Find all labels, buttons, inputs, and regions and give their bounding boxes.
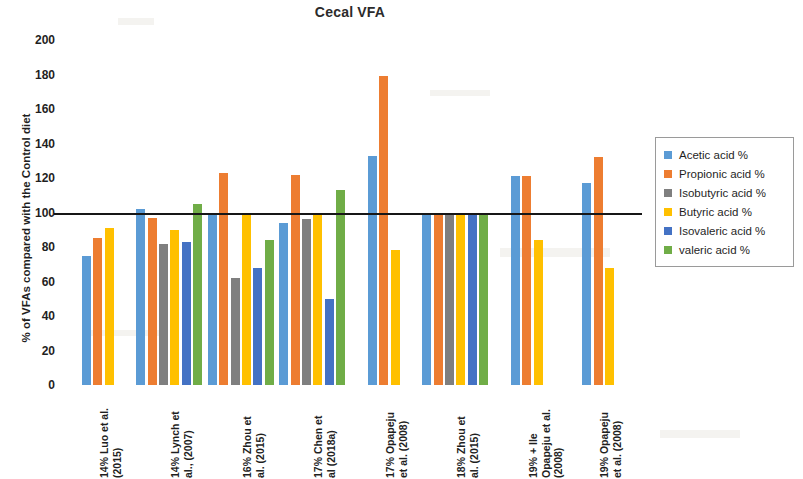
bar[interactable] (522, 176, 531, 385)
bar[interactable] (468, 213, 477, 386)
legend-label: Isobutyric acid % (679, 187, 766, 199)
x-axis-label: 17% Opapeju et al. (2008) (384, 390, 409, 478)
bar[interactable] (336, 190, 345, 385)
bar[interactable] (159, 244, 168, 385)
reference-line-100 (54, 213, 642, 215)
x-axis-label-cell: 17% Chen et al (2018a) (277, 388, 349, 479)
x-axis-label-cell: 18% Zhou et al. (2015) (420, 388, 492, 479)
y-tick-label-0: 0 (48, 378, 55, 392)
cecal-vfa-chart: Cecal VFA % of VFAs compared with the Co… (0, 0, 803, 479)
legend-label: valeric acid % (679, 244, 750, 256)
bar[interactable] (379, 76, 388, 385)
bar[interactable] (313, 213, 322, 386)
legend-item[interactable]: Isovaleric acid % (664, 221, 787, 240)
bar[interactable] (302, 219, 311, 385)
legend-label: Acetic acid % (679, 149, 748, 161)
bar[interactable] (219, 173, 228, 385)
bar[interactable] (105, 228, 114, 385)
y-tick-label-100: 100 (35, 206, 55, 220)
bar[interactable] (182, 242, 191, 385)
x-axis-labels: 14% Luo et al. (2015)14% Lynch et al., (… (62, 388, 634, 479)
bar[interactable] (265, 240, 274, 385)
x-axis-label-cell: 14% Lynch et al., (2007) (134, 388, 206, 479)
bar[interactable] (148, 218, 157, 385)
bar[interactable] (193, 204, 202, 385)
bar[interactable] (422, 213, 431, 386)
bar[interactable] (605, 268, 614, 385)
plot-area: 200180160140120100806040200 (62, 40, 634, 385)
bar[interactable] (231, 278, 240, 385)
legend-label: Butyric acid % (679, 206, 752, 218)
legend-item[interactable]: Isobutyric acid % (664, 183, 787, 202)
x-axis-label: 17% Chen et al (2018a) (312, 390, 337, 478)
bar[interactable] (170, 230, 179, 385)
legend-item[interactable]: valeric acid % (664, 240, 787, 259)
y-tick-label-40: 40 (42, 309, 55, 323)
legend-swatch-icon (664, 189, 672, 197)
legend-item[interactable]: Propionic acid % (664, 164, 787, 183)
x-axis-label: 14% Luo et al. (2015) (98, 390, 123, 478)
bar[interactable] (511, 176, 520, 385)
bar[interactable] (434, 213, 443, 386)
legend-swatch-icon (664, 208, 672, 216)
legend-swatch-icon (664, 246, 672, 254)
y-tick-label-160: 160 (35, 102, 55, 116)
x-axis-label: 19% + Ile Opapeju et al. (2008) (527, 390, 565, 478)
bar[interactable] (291, 175, 300, 385)
bar[interactable] (594, 157, 603, 385)
legend-item[interactable]: Butyric acid % (664, 202, 787, 221)
bar[interactable] (534, 240, 543, 385)
bar[interactable] (93, 238, 102, 385)
legend-item[interactable]: Acetic acid % (664, 145, 787, 164)
x-axis-label: 19% Opapeju et al. (2008) (598, 390, 623, 478)
x-axis-label: 18% Zhou et al. (2015) (455, 390, 480, 478)
x-axis-label-cell: 19% Opapeju et al. (2008) (563, 388, 635, 479)
y-tick-label-20: 20 (42, 344, 55, 358)
bar[interactable] (325, 299, 334, 385)
bar[interactable] (242, 213, 251, 386)
y-axis-title: % of VFAs compared with the Control diet (20, 98, 32, 358)
y-tick-label-60: 60 (42, 275, 55, 289)
bar[interactable] (253, 268, 262, 385)
x-axis-label-cell: 17% Opapeju et al. (2008) (348, 388, 420, 479)
bar[interactable] (445, 213, 454, 386)
y-tick-label-200: 200 (35, 33, 55, 47)
x-axis-label-cell: 19% + Ile Opapeju et al. (2008) (491, 388, 563, 479)
y-tick-label-80: 80 (42, 240, 55, 254)
y-tick-label-120: 120 (35, 171, 55, 185)
x-axis-label-cell: 16% Zhou et al. (2015) (205, 388, 277, 479)
bar[interactable] (368, 156, 377, 385)
bar[interactable] (136, 209, 145, 385)
bar[interactable] (82, 256, 91, 385)
bar[interactable] (456, 213, 465, 386)
bar[interactable] (391, 250, 400, 385)
legend-label: Isovaleric acid % (679, 225, 765, 237)
chart-title: Cecal VFA (0, 4, 700, 20)
x-axis-label: 16% Zhou et al. (2015) (241, 390, 266, 478)
y-tick-label-180: 180 (35, 68, 55, 82)
bar[interactable] (279, 223, 288, 385)
legend-swatch-icon (664, 227, 672, 235)
legend-swatch-icon (664, 151, 672, 159)
bar[interactable] (208, 213, 217, 386)
x-axis-label-cell: 14% Luo et al. (2015) (62, 388, 134, 479)
y-tick-label-140: 140 (35, 137, 55, 151)
x-axis-label: 14% Lynch et al., (2007) (169, 390, 194, 478)
legend-swatch-icon (664, 170, 672, 178)
legend: Acetic acid %Propionic acid %Isobutyric … (655, 137, 794, 267)
legend-label: Propionic acid % (679, 168, 765, 180)
bar[interactable] (479, 213, 488, 386)
